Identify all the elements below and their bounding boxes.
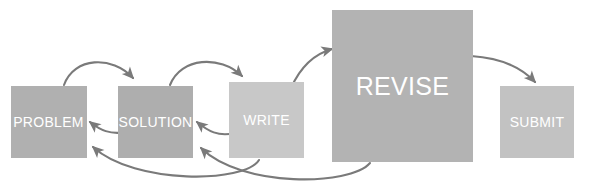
node-solution-label: SOLUTION xyxy=(119,115,193,129)
arrow-problem-to-solution xyxy=(64,62,133,85)
arrow-revise-to-submit xyxy=(471,56,535,82)
node-submit-label: SUBMIT xyxy=(510,115,565,129)
node-problem-label: PROBLEM xyxy=(13,115,84,129)
node-revise[interactable]: REVISE xyxy=(332,10,473,162)
node-solution[interactable]: SOLUTION xyxy=(118,86,193,158)
node-write[interactable]: WRITE xyxy=(229,82,304,158)
flowchart-diagram: PROBLEM SOLUTION WRITE REVISE SUBMIT xyxy=(0,0,590,190)
node-write-label: WRITE xyxy=(243,113,290,127)
node-submit[interactable]: SUBMIT xyxy=(500,86,574,158)
node-revise-label: REVISE xyxy=(356,74,450,99)
node-problem[interactable]: PROBLEM xyxy=(11,86,87,158)
